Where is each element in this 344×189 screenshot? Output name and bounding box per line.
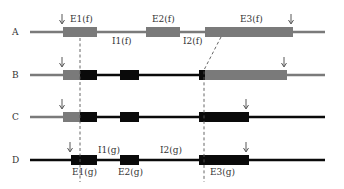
exon-box xyxy=(199,155,249,165)
segment-label: E2(f) xyxy=(152,14,175,24)
segment-label: I1(g) xyxy=(98,145,120,155)
segment-label: E1(f) xyxy=(70,14,93,24)
exon-box xyxy=(205,27,293,37)
segment-label: I2(g) xyxy=(160,145,182,155)
exon-box xyxy=(80,70,97,80)
exon-box xyxy=(205,70,287,80)
row-label: B xyxy=(12,70,19,80)
exon-box xyxy=(120,70,139,80)
exon-box xyxy=(63,112,80,122)
row-d: DI1(g)I2(g)E1(g)E2(g)E3(g) xyxy=(12,142,325,177)
row-label: C xyxy=(12,112,19,122)
exon-box xyxy=(199,112,249,122)
row-a: AE1(f)E2(f)E3(f)I1(f)I2(f) xyxy=(11,14,325,46)
segment-label: E3(g) xyxy=(210,167,235,177)
gene-structure-svg: AE1(f)E2(f)E3(f)I1(f)I2(f)BCDI1(g)I2(g)E… xyxy=(0,0,344,189)
exon-box xyxy=(80,112,97,122)
segment-label: E2(g) xyxy=(118,167,143,177)
exon-box xyxy=(146,27,180,37)
exon-box xyxy=(63,27,97,37)
segment-label: I1(f) xyxy=(112,36,132,46)
segment-label: E1(g) xyxy=(72,167,97,177)
row-c: C xyxy=(12,99,325,122)
row-label: A xyxy=(11,27,19,37)
exon-intron-diagram: AE1(f)E2(f)E3(f)I1(f)I2(f)BCDI1(g)I2(g)E… xyxy=(0,0,344,189)
exon-box xyxy=(71,155,97,165)
segment-label: E3(f) xyxy=(240,14,263,24)
row-b: B xyxy=(12,57,325,80)
row-label: D xyxy=(12,155,19,165)
segment-label: I2(f) xyxy=(183,36,203,46)
exon-box xyxy=(63,70,80,80)
transcript-rows: AE1(f)E2(f)E3(f)I1(f)I2(f)BCDI1(g)I2(g)E… xyxy=(11,14,325,177)
exon-box xyxy=(120,112,139,122)
exon-box xyxy=(120,155,139,165)
